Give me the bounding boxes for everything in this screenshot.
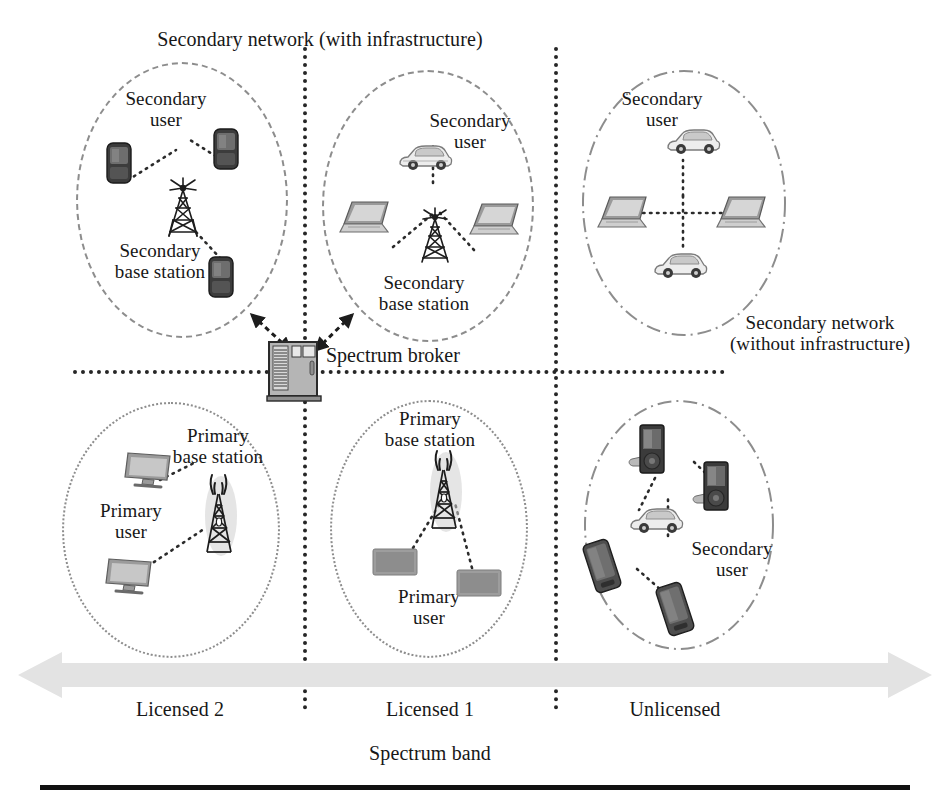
pda-device-icon [628, 423, 670, 483]
spectrum-broker-label: Spectrum broker [326, 344, 460, 367]
spectrum-band-arrow [18, 652, 932, 698]
mobile-phone-icon [208, 256, 234, 298]
broadcast-tower-icon [193, 472, 245, 560]
antenna-tower-icon [411, 204, 459, 266]
broadcast-tower-icon [418, 448, 470, 536]
car-icon [396, 140, 454, 172]
laptop-icon [468, 200, 526, 240]
laptop-icon [715, 193, 773, 233]
monitor-icon [123, 450, 173, 492]
figure-bottom-rule [40, 785, 910, 790]
vertical-divider-right [554, 47, 558, 710]
pda-device-icon [692, 460, 734, 520]
label-bottom-right-secondary-user: Secondary user [659, 538, 805, 581]
laptop-icon [596, 193, 654, 233]
label-bottom-left-primary-user: Primary user [72, 500, 190, 543]
label-top-middle-secondary-base-station: Secondary base station [348, 272, 500, 315]
label-top-left-secondary-user: Secondary user [96, 88, 236, 131]
label-bottom-middle-primary-base-station: Primary base station [350, 408, 510, 451]
monitor-icon [104, 556, 154, 598]
mobile-phone-icon [106, 142, 132, 184]
spectrum-broker-server-icon [267, 340, 321, 402]
monitor-icon [455, 568, 503, 602]
label-secondary-network-without-infrastructure: Secondary network (without infrastructur… [700, 312, 940, 355]
laptop-icon [338, 198, 396, 238]
figure-canvas: Secondary network (with infrastructure) [0, 0, 950, 794]
car-icon [651, 248, 709, 280]
horizontal-divider [73, 370, 725, 374]
axis-title-spectrum-band: Spectrum band [310, 742, 550, 764]
monitor-icon [371, 547, 419, 581]
band-label-licensed-2: Licensed 2 [100, 698, 260, 720]
mobile-phone-icon [213, 128, 239, 170]
band-label-unlicensed: Unlicensed [595, 698, 755, 720]
antenna-tower-icon [157, 174, 209, 240]
car-icon [664, 124, 722, 156]
figure-top-title: Secondary network (with infrastructure) [120, 28, 520, 50]
car-icon [627, 503, 685, 535]
band-label-licensed-1: Licensed 1 [350, 698, 510, 720]
